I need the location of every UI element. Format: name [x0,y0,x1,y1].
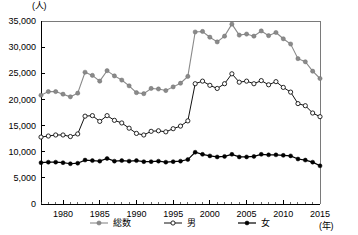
x-axis-tick-label: 2005 [237,209,257,219]
data-point [289,90,293,94]
data-point [318,115,322,119]
y-axis-tick-label: 25,000 [8,68,36,78]
data-point [252,154,256,158]
data-point [164,160,168,164]
x-axis-tick-label: 1985 [90,209,110,219]
data-point [76,132,80,136]
data-point [281,153,285,157]
x-axis-tick-label: 2015 [310,209,330,219]
data-point [237,33,241,37]
data-point [98,79,102,83]
chart-axis-lines [41,21,320,204]
data-point [289,42,293,46]
data-point [134,91,138,95]
data-point [318,164,322,168]
data-point [164,130,168,134]
data-point [156,129,160,133]
data-point [201,152,205,156]
data-point [296,157,300,161]
data-point [200,29,204,33]
data-point [193,30,197,34]
data-point [83,70,87,74]
legend-label: 女 [261,217,270,228]
y-axis-tick-label: 35,000 [8,16,36,26]
legend-marker-point [171,221,175,225]
data-point [230,152,234,156]
data-point [259,29,263,33]
y-axis-tick-label: 0 [31,199,36,209]
data-point [46,134,50,138]
data-point [156,159,160,163]
data-point [76,161,80,165]
data-point [98,119,102,123]
data-point [237,80,241,84]
data-point [289,154,293,158]
data-point [259,79,263,83]
x-axis-tick-label: 1980 [53,209,73,219]
data-point [208,83,212,87]
data-point [296,102,300,106]
data-point [296,57,300,61]
data-point [156,87,160,91]
chart-frame [41,21,320,204]
legend-item-男[interactable]: 男 [164,218,196,228]
data-point [105,114,109,118]
data-point [120,121,124,125]
x-axis-tick-labels: 19801985199019952000200520102015 [53,200,330,219]
data-point [142,160,146,164]
data-point [186,74,190,78]
data-point [215,40,219,44]
data-point [267,153,271,157]
data-point [244,79,248,83]
data-point [171,127,175,131]
data-point [98,159,102,163]
data-point [178,124,182,128]
data-point [215,155,219,159]
data-point [105,157,109,161]
data-point [274,153,278,157]
data-point [149,129,153,133]
data-point [259,152,263,156]
data-point [54,160,58,164]
y-axis-tick-label: 15,000 [8,121,36,131]
y-axis-tick-labels: 35,00030,00025,00020,00015,00010,0005,00… [8,16,45,209]
series-line [41,24,320,97]
data-point [281,37,285,41]
data-point [267,83,271,87]
data-point [318,76,322,80]
data-point [90,73,94,77]
data-point [54,133,58,137]
data-point [61,133,65,137]
data-point [120,78,124,82]
data-point [46,89,50,93]
chart-axes [41,21,320,204]
y-axis-tick-label: 30,000 [8,42,36,52]
series-女 [39,150,322,168]
chart-series-group [39,22,322,168]
data-point [76,91,80,95]
data-point [90,114,94,118]
line-chart: 35,00030,00025,00020,00015,00010,0005,00… [0,0,358,235]
data-point [120,159,124,163]
data-point [68,134,72,138]
data-point [274,80,278,84]
data-point [68,162,72,166]
data-point [149,160,153,164]
y-axis-tick-label: 10,000 [8,147,36,157]
data-point [303,60,307,64]
data-point [193,82,197,86]
data-point [112,74,116,78]
data-point [112,159,116,163]
data-point [68,95,72,99]
data-point [134,131,138,135]
legend-label: 総数 [113,217,131,228]
data-point [142,133,146,137]
data-point [222,34,226,38]
data-point [267,34,271,38]
data-point [208,35,212,39]
data-point [179,159,183,163]
data-point [54,89,58,93]
legend-marker-point [97,221,101,225]
data-point [178,81,182,85]
data-point [112,118,116,122]
